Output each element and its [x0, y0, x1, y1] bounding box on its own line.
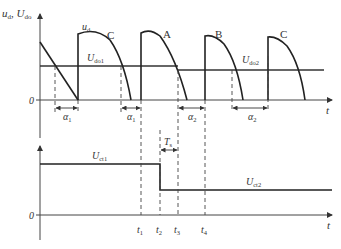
udo1-label: Udo1	[87, 52, 104, 64]
pulse-label-a: A	[163, 28, 171, 40]
udo2-label: Udo2	[242, 54, 259, 66]
ud-label: ud	[82, 21, 91, 33]
t4-label: t4	[201, 224, 208, 236]
uct1-label: Uct1	[92, 150, 107, 162]
alpha2-label-1: α2	[188, 111, 197, 123]
t3-label: t3	[174, 224, 180, 236]
t2-label: t2	[156, 224, 162, 236]
uct-step-waveform	[40, 164, 332, 190]
top-plot: ud, Udo 0 t Udo1 Udo2 ud C A B C	[2, 7, 332, 138]
bottom-x-axis-label: t	[327, 219, 331, 231]
top-zero-label: 0	[29, 95, 34, 106]
alpha2-label-2: α2	[248, 111, 257, 123]
top-x-axis-label: t	[326, 104, 330, 116]
t1-label: t1	[137, 224, 143, 236]
pulse-label-c-1: C	[107, 29, 114, 41]
pulse-label-c-2: C	[280, 28, 287, 40]
alpha1-label-2: α1	[127, 111, 136, 123]
ts-label: Ts	[164, 136, 173, 148]
rectifier-control-waveform-diagram: ud, Udo 0 t Udo1 Udo2 ud C A B C	[0, 0, 341, 249]
bottom-zero-label: 0	[29, 210, 34, 221]
alpha1-label-1: α1	[63, 111, 72, 123]
bottom-plot: 0 t Uct1 Uct2 Ts t1 t2 t3 t4	[29, 100, 332, 240]
uct2-label: Uct2	[246, 176, 261, 188]
pulse-label-b: B	[215, 28, 222, 40]
top-y-axis-label: ud, Udo	[2, 7, 32, 21]
